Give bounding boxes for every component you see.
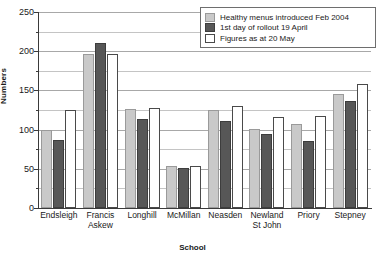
- x-axis-labels: EndsleighFrancis AskewLonghillMcMillanNe…: [38, 210, 371, 242]
- bar: [273, 117, 284, 208]
- y-tick-label-150: 150: [19, 85, 34, 95]
- legend-swatch-series-0: [205, 13, 215, 22]
- bar: [95, 43, 106, 208]
- legend-label-0: Healthy menus introduced Feb 2004: [220, 13, 349, 22]
- y-tick-label-0: 0: [29, 203, 34, 213]
- legend-swatch-series-2: [205, 34, 215, 43]
- y-tick-label-100: 100: [19, 125, 34, 135]
- legend-item-0: Healthy menus introduced Feb 2004: [205, 13, 371, 22]
- legend-label-1: 1st day of rollout 19 April: [220, 23, 308, 32]
- bar: [65, 110, 76, 208]
- bar: [149, 108, 160, 208]
- x-tick-label: Francis Askew: [80, 210, 122, 230]
- y-axis-ticks: 050100150200250: [0, 0, 34, 209]
- bar: [357, 84, 368, 208]
- x-tick-label: Priory: [288, 210, 330, 220]
- bar: [261, 134, 272, 208]
- bar: [345, 101, 356, 208]
- bar-group: [121, 12, 163, 208]
- chart-legend: Healthy menus introduced Feb 2004 1st da…: [200, 7, 376, 48]
- bar: [107, 54, 118, 208]
- bar: [249, 129, 260, 208]
- bar: [303, 141, 314, 208]
- y-tick-label-200: 200: [19, 46, 34, 56]
- x-axis-line: [38, 208, 372, 209]
- bar: [220, 121, 231, 208]
- legend-label-2: Figures as at 20 May: [220, 34, 295, 43]
- legend-item-2: Figures as at 20 May: [205, 34, 371, 43]
- bar: [125, 109, 136, 208]
- x-tick-label: Neasden: [205, 210, 247, 220]
- legend-swatch-series-1: [205, 23, 215, 32]
- x-tick-label: Stepney: [329, 210, 371, 220]
- x-tick-label: Newland St John: [246, 210, 288, 230]
- y-tick-label-50: 50: [24, 164, 34, 174]
- x-axis-title: School: [0, 243, 385, 252]
- y-axis-line: [38, 12, 39, 209]
- bar-group: [163, 12, 205, 208]
- bar-chart: Numbers 050100150200250 EndsleighFrancis…: [0, 0, 385, 264]
- y-tick-label-250: 250: [19, 7, 34, 17]
- bar: [83, 54, 94, 208]
- bar: [178, 168, 189, 208]
- bar: [166, 166, 177, 208]
- bar: [333, 94, 344, 208]
- bar: [41, 130, 52, 208]
- bar-group: [80, 12, 122, 208]
- bar: [291, 124, 302, 208]
- legend-item-1: 1st day of rollout 19 April: [205, 23, 371, 32]
- bar: [137, 119, 148, 208]
- bar: [53, 140, 64, 208]
- x-tick-label: McMillan: [163, 210, 205, 220]
- bar: [208, 110, 219, 208]
- bar-group: [38, 12, 80, 208]
- bar: [190, 166, 201, 208]
- bar: [315, 116, 326, 208]
- x-tick-label: Longhill: [121, 210, 163, 220]
- x-tick-label: Endsleigh: [38, 210, 80, 220]
- bar: [232, 106, 243, 208]
